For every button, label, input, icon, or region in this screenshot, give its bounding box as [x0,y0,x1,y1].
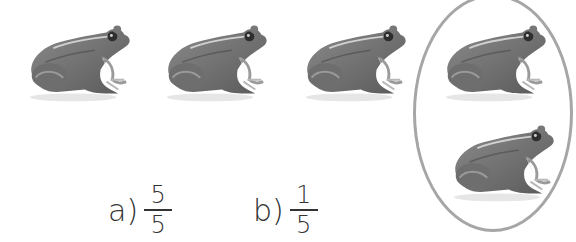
fraction-b-numerator: 1 [296,182,311,208]
fraction-a: 5 5 [144,182,172,238]
option-a[interactable]: a) 5 5 [108,182,172,238]
frog-image-2 [153,18,271,102]
option-b-label: b) [253,193,284,228]
frog-image-1 [16,18,134,102]
fraction-a-numerator: 5 [150,182,165,208]
fraction-b-denominator: 5 [296,212,311,238]
option-a-label: a) [108,193,138,228]
grouping-ellipse [413,0,573,232]
fraction-a-denominator: 5 [150,212,165,238]
frog-image-3 [292,18,410,102]
fraction-b: 1 5 [290,182,318,238]
option-b[interactable]: b) 1 5 [253,182,318,238]
